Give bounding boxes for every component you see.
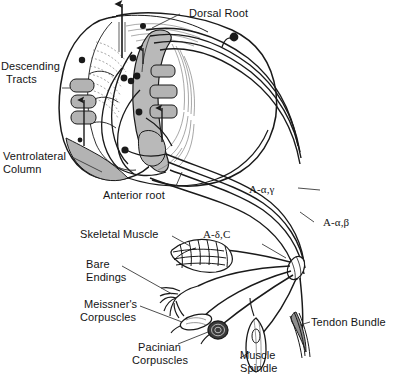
spinal-cord-diagram: Dorsal Root Descending Tracts Ventrolate…: [0, 0, 394, 380]
label-muscle-spindle-line1: Muscle: [240, 349, 275, 362]
label-a-alpha-gamma: A-α,γ: [249, 183, 274, 196]
label-meissners-line1: Meissner's: [84, 298, 137, 311]
label-descending-tracts-line2: Tracts: [6, 73, 37, 86]
label-meissners-line2: Corpuscles: [80, 311, 136, 324]
label-ventrolateral-column-line2: Column: [3, 163, 42, 176]
label-skeletal-muscle: Skeletal Muscle: [80, 228, 159, 241]
label-dorsal-root: Dorsal Root: [189, 7, 248, 20]
descending-tract-blobs: [70, 79, 96, 124]
label-tendon-bundle: Tendon Bundle: [311, 316, 386, 329]
label-a-delta-c: A-δ,C: [203, 228, 230, 241]
label-pacinian-line1: Pacinian: [138, 341, 181, 354]
label-bare-endings-line2: Endings: [86, 271, 126, 284]
skeletal-muscle-organ: [171, 239, 232, 272]
dorsal-root-entry-dot: [140, 23, 146, 29]
label-muscle-spindle-line2: Spindle: [240, 362, 277, 375]
label-descending-tracts-line1: Descending: [0, 60, 60, 73]
label-pacinian-line2: Corpuscles: [132, 354, 188, 367]
label-bare-endings-line1: Bare: [86, 258, 110, 271]
tendon-bundle-organ: [290, 312, 310, 358]
label-anterior-root: Anterior root: [103, 189, 165, 202]
label-a-alpha-beta: A-α,β: [323, 216, 349, 229]
label-ventrolateral-column-line1: Ventrolateral: [3, 150, 66, 163]
ascending-tract-blobs: [150, 65, 177, 118]
